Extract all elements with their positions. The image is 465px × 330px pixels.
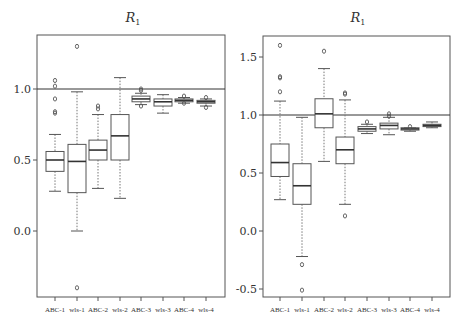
outlier-point xyxy=(278,43,281,47)
outlier-point xyxy=(75,286,78,290)
chart-title-main: R xyxy=(125,10,136,25)
boxplot-figure: R10.00.51.0ABC-1wls-1ABC-2wls-2ABC-3wls-… xyxy=(0,0,465,330)
chart-title: R1 xyxy=(125,10,141,27)
chart-title: R1 xyxy=(350,10,366,27)
iqr-box xyxy=(271,144,289,176)
box-wls-3 xyxy=(154,95,172,113)
y-tick-label: 0.5 xyxy=(14,154,32,167)
x-tick-label: ABC-3 xyxy=(131,306,152,314)
x-tick-label: wls-1 xyxy=(69,306,85,314)
x-tick-label: wls-4 xyxy=(424,306,440,314)
x-tick-label: ABC-1 xyxy=(270,306,291,314)
y-tick-label: 1.0 xyxy=(240,109,258,122)
x-tick-label: ABC-3 xyxy=(357,306,378,314)
x-tick-label: ABC-4 xyxy=(174,306,195,314)
outlier-point xyxy=(343,214,346,218)
y-tick-label: 1.0 xyxy=(14,83,32,96)
box-abc-2 xyxy=(315,49,333,161)
y-tick-label: 0.5 xyxy=(240,167,258,180)
y-tick-label: -0.5 xyxy=(236,283,257,296)
box-abc-3 xyxy=(358,120,376,134)
y-tick-label: 1.5 xyxy=(240,51,258,64)
x-tick-label: ABC-2 xyxy=(314,306,335,314)
outlier-point xyxy=(300,288,303,292)
left-boxplot-panel: R10.00.51.0ABC-1wls-1ABC-2wls-2ABC-3wls-… xyxy=(14,10,226,314)
plot-frame xyxy=(263,36,450,297)
chart-title-main: R xyxy=(350,10,361,25)
plot-frame xyxy=(37,35,225,297)
iqr-box xyxy=(68,144,86,192)
box-abc-2 xyxy=(89,104,107,188)
x-tick-label: ABC-4 xyxy=(400,306,421,314)
y-tick-label: 0.0 xyxy=(14,225,32,238)
box-abc-1 xyxy=(46,78,64,191)
x-tick-label: wls-2 xyxy=(337,306,353,314)
box-abc-1 xyxy=(271,43,289,199)
box-abc-3 xyxy=(132,87,150,108)
chart-title-subscript: 1 xyxy=(135,18,140,27)
x-tick-label: ABC-1 xyxy=(45,306,66,314)
x-tick-label: wls-4 xyxy=(198,306,214,314)
right-boxplot-panel: R1-0.50.00.51.01.5ABC-1wls-1ABC-2wls-2AB… xyxy=(236,10,450,314)
outlier-point xyxy=(53,97,56,101)
box-wls-4 xyxy=(197,95,215,109)
outlier-point xyxy=(300,263,303,267)
x-tick-label: wls-3 xyxy=(381,306,397,314)
outlier-point xyxy=(75,44,78,48)
iqr-box xyxy=(46,151,64,171)
outlier-point xyxy=(96,107,99,111)
iqr-box xyxy=(111,115,129,160)
box-wls-2 xyxy=(336,91,354,218)
box-abc-4 xyxy=(401,125,419,132)
x-tick-label: wls-1 xyxy=(294,306,310,314)
outlier-point xyxy=(53,84,56,88)
chart-figure: R10.00.51.0ABC-1wls-1ABC-2wls-2ABC-3wls-… xyxy=(0,0,465,330)
x-tick-label: wls-2 xyxy=(112,306,128,314)
box-wls-1 xyxy=(68,44,86,290)
chart-title-subscript: 1 xyxy=(360,18,365,27)
y-tick-label: 0.0 xyxy=(240,225,258,238)
box-wls-2 xyxy=(111,78,129,199)
outlier-point xyxy=(53,78,56,82)
iqr-box xyxy=(293,164,311,205)
outlier-point xyxy=(278,90,281,94)
x-tick-label: wls-3 xyxy=(155,306,171,314)
box-abc-4 xyxy=(175,94,193,105)
outlier-point xyxy=(365,120,368,124)
x-tick-label: ABC-2 xyxy=(88,306,109,314)
box-wls-1 xyxy=(293,117,311,292)
outlier-point xyxy=(322,49,325,53)
box-wls-4 xyxy=(423,122,441,128)
